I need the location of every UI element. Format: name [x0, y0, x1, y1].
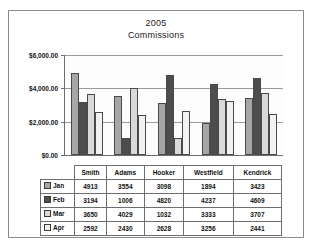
table-cell: 4913	[75, 180, 107, 194]
bar-jan-smith[interactable]	[71, 73, 79, 155]
bar-apr-hooker[interactable]	[182, 111, 190, 155]
chart-title: 2005 Commissions	[9, 17, 303, 41]
table-column-header: Smith	[75, 166, 107, 180]
table-cell: 1006	[106, 194, 144, 208]
table-cell: 2430	[106, 222, 144, 236]
table-cell: 2441	[233, 222, 281, 236]
y-axis-tick-label: $2,000.00	[29, 118, 58, 125]
chart-frame: 2005 Commissions $0.00$2,000.00$4,000.00…	[8, 10, 304, 238]
table-cell: 1032	[144, 208, 183, 222]
table-cell: 1894	[183, 180, 233, 194]
table-cell: 3707	[233, 208, 281, 222]
bar-feb-westfield[interactable]	[210, 84, 218, 155]
bar-jan-kendrick[interactable]	[245, 98, 253, 155]
legend-label: Mar	[53, 211, 65, 218]
table-column-header: Hooker	[144, 166, 183, 180]
table-cell: 2592	[75, 222, 107, 236]
table-row: Feb31941006482042374609	[41, 194, 282, 208]
bar-feb-kendrick[interactable]	[253, 78, 261, 155]
y-axis-tick-mark	[61, 155, 65, 156]
legend-cell-apr[interactable]: Apr	[41, 222, 75, 236]
legend-swatch-icon	[44, 210, 51, 217]
bar-apr-smith[interactable]	[95, 112, 103, 155]
table-cell: 2628	[144, 222, 183, 236]
bar-mar-adams[interactable]	[130, 88, 138, 155]
table-cell: 4609	[233, 194, 281, 208]
table-cell: 3554	[106, 180, 144, 194]
chart-title-line-2: Commissions	[9, 29, 303, 41]
legend-label: Jan	[53, 183, 64, 190]
legend-label: Apr	[53, 225, 64, 232]
bar-mar-hooker[interactable]	[174, 138, 182, 155]
bar-apr-westfield[interactable]	[226, 101, 234, 155]
legend-label: Feb	[53, 197, 65, 204]
y-axis-tick-label: $4,000.00	[29, 85, 58, 92]
table-cell: 3650	[75, 208, 107, 222]
bar-feb-smith[interactable]	[79, 102, 87, 155]
bar-apr-kendrick[interactable]	[269, 114, 277, 155]
bar-mar-smith[interactable]	[87, 94, 95, 155]
table-cell: 3194	[75, 194, 107, 208]
y-axis-tick-label: $6,000.00	[29, 52, 58, 59]
legend-cell-feb[interactable]: Feb	[41, 194, 75, 208]
bar-mar-westfield[interactable]	[218, 99, 226, 155]
table-row: Jan49133554309818943423	[41, 180, 282, 194]
table-row: Apr25922430262832562441	[41, 222, 282, 236]
bar-feb-adams[interactable]	[122, 138, 130, 155]
bar-jan-adams[interactable]	[114, 96, 122, 155]
table-cell: 4029	[106, 208, 144, 222]
plot-area	[64, 55, 283, 156]
chart-title-line-1: 2005	[9, 17, 303, 29]
legend-swatch-icon	[44, 196, 51, 203]
table-row: Mar36504029103233333707	[41, 208, 282, 222]
y-axis: $0.00$2,000.00$4,000.00$6,000.00	[9, 53, 63, 163]
bar-feb-hooker[interactable]	[166, 75, 174, 155]
legend-swatch-icon	[44, 224, 51, 231]
table-header-row: SmithAdamsHookerWestfieldKendrick	[41, 166, 282, 180]
table-head: SmithAdamsHookerWestfieldKendrick	[41, 166, 282, 180]
table-body: Jan49133554309818943423Feb31941006482042…	[41, 180, 282, 236]
table-column-header: Westfield	[183, 166, 233, 180]
table-column-header: Adams	[106, 166, 144, 180]
legend-cell-mar[interactable]: Mar	[41, 208, 75, 222]
bar-mar-kendrick[interactable]	[261, 93, 269, 155]
y-axis-tick-label: $0.00	[42, 152, 58, 159]
data-table: SmithAdamsHookerWestfieldKendrick Jan491…	[40, 165, 282, 236]
bar-series-container	[65, 55, 283, 155]
legend-cell-jan[interactable]: Jan	[41, 180, 75, 194]
table-cell: 3333	[183, 208, 233, 222]
bar-apr-adams[interactable]	[138, 115, 146, 156]
table-cell: 3098	[144, 180, 183, 194]
bar-group-kendrick	[239, 55, 283, 155]
bar-group-hooker	[152, 55, 196, 155]
table-cell: 3256	[183, 222, 233, 236]
bar-group-westfield	[196, 55, 240, 155]
bar-group-adams	[109, 55, 153, 155]
legend-swatch-icon	[44, 182, 51, 189]
bar-jan-hooker[interactable]	[158, 103, 166, 155]
bar-group-smith	[65, 55, 109, 155]
plot-wrapper: $0.00$2,000.00$4,000.00$6,000.00	[9, 53, 305, 163]
bar-jan-westfield[interactable]	[202, 123, 210, 155]
table-cell: 4237	[183, 194, 233, 208]
table-cell: 4820	[144, 194, 183, 208]
table-cell: 3423	[233, 180, 281, 194]
table-column-header: Kendrick	[233, 166, 281, 180]
table-corner-cell	[41, 166, 75, 180]
